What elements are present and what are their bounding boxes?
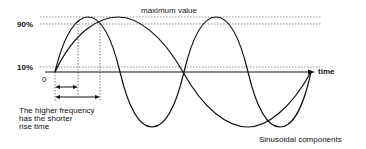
sinusoidal-components-label: Sinusoidal components — [259, 135, 342, 144]
long-rise-time-arrow — [55, 95, 100, 99]
ten-percent-label: 10% — [17, 63, 33, 72]
caption-line-3: rise time — [19, 122, 49, 131]
time-axis-label: time — [318, 67, 334, 76]
ninety-percent-label: 90% — [17, 20, 33, 29]
sinusoid-diagram — [0, 0, 366, 149]
origin-label: 0 — [42, 75, 46, 84]
short-rise-time-arrow — [55, 85, 78, 89]
time-axis-arrowhead — [308, 70, 315, 75]
maximum-value-label: maximum value — [141, 6, 197, 15]
